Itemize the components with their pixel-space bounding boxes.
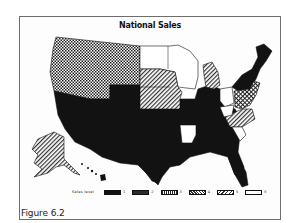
legend-title: Sales level [72, 190, 94, 194]
figure-frame: National Sales [19, 16, 281, 220]
legend-value: 3 [180, 190, 182, 194]
legend-value: 4 [208, 190, 210, 194]
legend-swatch-checker [161, 190, 178, 195]
region-michigan [203, 62, 220, 89]
map-legend: Sales level 1 2 3 4 5 6 [72, 187, 269, 197]
legend-value: 1 [123, 190, 125, 194]
legend-item-3: 3 [161, 190, 182, 195]
legend-item-4: 4 [189, 190, 210, 195]
legend-value: 6 [264, 190, 266, 194]
legend-swatch-cross-hatch [217, 190, 234, 195]
legend-swatch-solid [104, 190, 121, 195]
legend-item-6: 6 [245, 190, 266, 195]
legend-item-1: 1 [104, 190, 125, 195]
figure-caption: Figure 6.2 [21, 208, 65, 218]
region-arkansas [180, 125, 196, 143]
region-northeast [232, 44, 272, 91]
region-plains [140, 69, 182, 109]
legend-swatch-hatch [189, 190, 206, 195]
legend-item-2: 2 [132, 190, 153, 195]
legend-value: 5 [236, 190, 238, 194]
legend-value: 2 [151, 190, 153, 194]
region-hawaii [81, 163, 106, 181]
legend-item-5: 5 [217, 190, 238, 195]
legend-swatch-dark [132, 190, 149, 195]
region-florida [228, 157, 248, 187]
legend-swatch-white [245, 190, 262, 195]
region-texas-south [140, 165, 162, 183]
